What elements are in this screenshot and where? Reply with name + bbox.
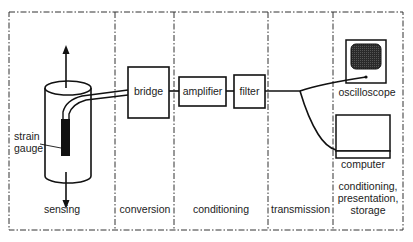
bridge-label: bridge (134, 85, 163, 97)
measurement-system-diagram: strain gauge bridge amplifier filter osc… (0, 0, 413, 242)
strain-gauge-label: strain (14, 130, 40, 142)
stage-label-conditioning: conditioning (193, 203, 249, 215)
stage-label-transmission: transmission (271, 203, 330, 215)
stage-label-output-3: storage (350, 204, 385, 216)
strain-gauge (61, 119, 70, 156)
amplifier-label: amplifier (183, 85, 223, 97)
stage-label-output-1: conditioning, (339, 180, 398, 192)
computer-icon (336, 115, 390, 158)
strain-gauge-label-2: gauge (14, 142, 43, 154)
stage-label-conversion: conversion (120, 203, 171, 215)
filter-label: filter (240, 85, 260, 97)
stage-label-output-2: presentation, (338, 192, 399, 204)
computer-label: computer (341, 158, 385, 170)
stage-label-sensing: sensing (44, 203, 80, 215)
oscilloscope-probe-dot (364, 75, 367, 78)
oscilloscope-label: oscilloscope (338, 86, 395, 98)
